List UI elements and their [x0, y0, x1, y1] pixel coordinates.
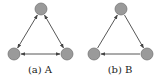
- figure-b: (b) B: [80, 0, 160, 84]
- edge-top-bottom-right: [45, 15, 64, 48]
- edge-bottom-left-top: [98, 15, 118, 48]
- caption-b: (b) B: [80, 64, 160, 75]
- node-bottom-left: [8, 48, 20, 60]
- node-bottom-right: [61, 48, 73, 60]
- graph-b: [80, 0, 160, 64]
- node-bottom-left: [88, 48, 100, 60]
- node-top: [115, 3, 127, 15]
- graph-a: [0, 0, 80, 64]
- caption-a: (a) A: [0, 64, 80, 75]
- node-top: [35, 3, 47, 15]
- edge-top-bottom-left: [18, 15, 38, 48]
- node-bottom-right: [141, 48, 153, 60]
- figure-a: (a) A: [0, 0, 80, 84]
- edge-top-bottom-right: [125, 15, 144, 48]
